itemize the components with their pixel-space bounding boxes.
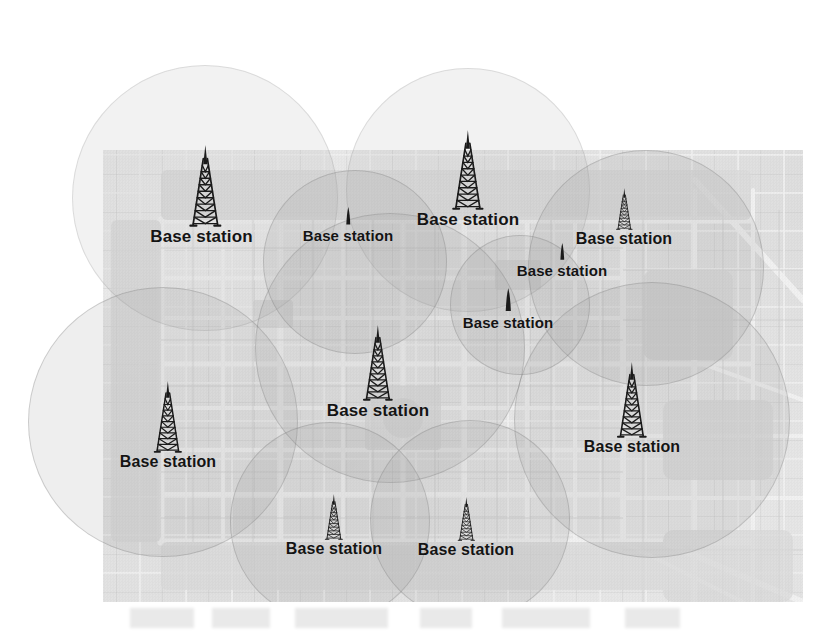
base-station-marker: Base station xyxy=(463,288,553,330)
cell-tower-icon xyxy=(558,243,567,262)
cell-tower-icon xyxy=(503,288,514,314)
base-station-label: Base station xyxy=(150,228,252,245)
base-station-marker: Base station xyxy=(303,207,393,243)
cell-tower-icon xyxy=(457,497,476,541)
base-station-label: Base station xyxy=(417,211,519,228)
cell-tower-icon xyxy=(615,362,649,438)
base-station-marker: Base station xyxy=(584,362,680,455)
base-station-label: Base station xyxy=(517,263,607,278)
base-station-marker: Base station xyxy=(418,497,514,558)
cellular-coverage-figure: Base stationBase stationBase stationBase… xyxy=(0,0,831,637)
base-station-label: Base station xyxy=(418,542,514,558)
cell-tower-icon xyxy=(448,130,488,210)
base-station-label: Base station xyxy=(463,315,553,330)
faint-caption-smudge xyxy=(120,608,740,628)
base-station-marker: Base station xyxy=(120,381,216,470)
cell-tower-icon xyxy=(344,207,353,227)
base-station-marker: Base station xyxy=(157,145,252,245)
base-station-marker: Base station xyxy=(576,188,672,247)
base-station-marker: Base station xyxy=(517,243,607,278)
base-station-label: Base station xyxy=(120,454,216,470)
base-station-marker: Base station xyxy=(327,325,429,419)
cell-tower-icon xyxy=(324,494,344,540)
base-station-label: Base station xyxy=(327,402,429,419)
cell-tower-icon xyxy=(151,381,185,453)
base-station-label: Base station xyxy=(584,439,680,455)
base-station-label: Base station xyxy=(286,541,382,557)
base-station-marker: Base station xyxy=(286,494,382,557)
cell-tower-icon xyxy=(615,188,634,230)
cell-tower-icon xyxy=(184,145,226,227)
base-station-label: Base station xyxy=(303,228,393,243)
base-station-marker: Base station xyxy=(417,130,519,228)
cell-tower-icon xyxy=(360,325,396,401)
